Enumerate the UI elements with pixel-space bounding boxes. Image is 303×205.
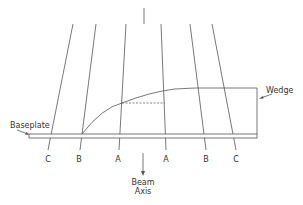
ray-label-c-right: C [233, 155, 239, 164]
baseplate-arrowhead-icon [25, 132, 30, 135]
rays [48, 24, 236, 150]
ray-b-right [190, 24, 206, 150]
ray-label-a-right: A [163, 155, 169, 164]
wedge-beam-diagram: Baseplate Wedge Beam Axis C B A A B C [0, 0, 303, 205]
beam-axis-label-line2: Axis [135, 187, 152, 196]
ray-label-b-left: B [76, 155, 82, 164]
ray-b-left [80, 24, 96, 150]
beam-axis-label-line1: Beam [131, 178, 154, 187]
ray-a-left [119, 24, 126, 150]
wedge-label: Wedge [266, 86, 294, 95]
wedge-profile [82, 88, 257, 134]
baseplate-label: Baseplate [10, 121, 50, 130]
ray-c-left [48, 24, 73, 150]
ray-c-right [212, 24, 236, 150]
ray-a-right [161, 24, 166, 150]
baseplate [29, 134, 257, 138]
beam-axis-arrowhead-icon [141, 171, 145, 176]
wedge-arrowhead-icon [259, 96, 264, 99]
ray-label-a-left: A [115, 155, 121, 164]
ray-label-b-right: B [203, 155, 209, 164]
ray-label-c-left: C [45, 155, 51, 164]
